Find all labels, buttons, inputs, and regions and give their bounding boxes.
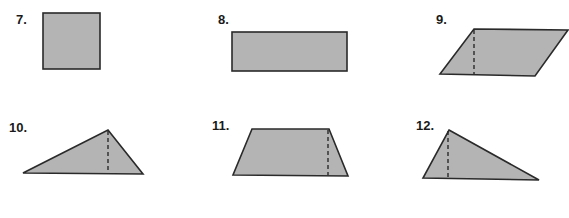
square-shape [43, 13, 100, 69]
shapes-canvas [0, 0, 569, 218]
right-triangle-shape [423, 130, 539, 180]
rectangle-shape [232, 32, 347, 71]
trapezoid-shape [233, 129, 348, 176]
triangle-shape [23, 130, 143, 174]
parallelogram-shape [440, 29, 568, 76]
